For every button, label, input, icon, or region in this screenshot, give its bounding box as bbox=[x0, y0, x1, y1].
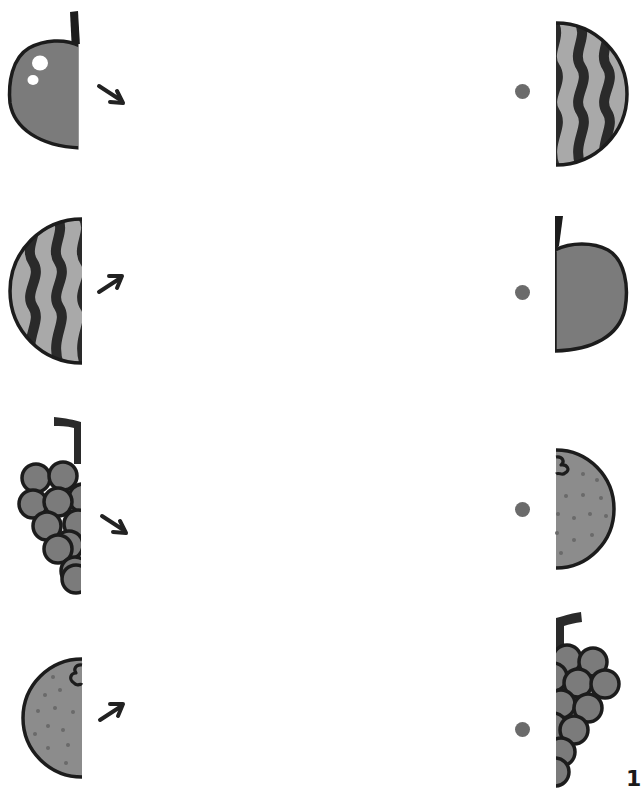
arrow-down-right-icon bbox=[96, 82, 126, 110]
match-dot[interactable] bbox=[515, 722, 530, 737]
match-dot[interactable] bbox=[515, 502, 530, 517]
orange-left-half bbox=[21, 657, 83, 779]
arrow-down-right-icon bbox=[99, 512, 129, 540]
apple-right-half bbox=[553, 214, 633, 354]
watermelon-left-half bbox=[11, 217, 83, 365]
match-dot[interactable] bbox=[515, 285, 530, 300]
grapes-right-half bbox=[555, 610, 625, 790]
grapes-left-half bbox=[14, 414, 84, 596]
page-number: 1 bbox=[626, 766, 641, 791]
match-dot[interactable] bbox=[515, 84, 530, 99]
arrow-up-right-icon bbox=[96, 272, 126, 300]
watermelon-right-half bbox=[555, 22, 630, 167]
orange-right-half bbox=[555, 448, 621, 570]
arrow-up-right-icon bbox=[97, 700, 127, 728]
apple-left-half bbox=[4, 8, 84, 153]
